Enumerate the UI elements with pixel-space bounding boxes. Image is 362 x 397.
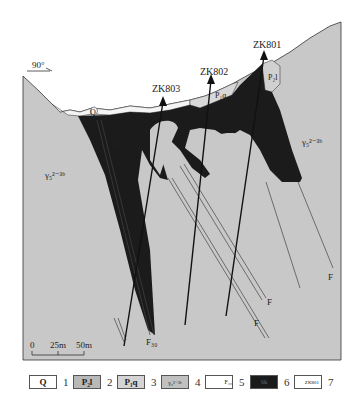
fault-label-f30: F₃₀ [146,337,157,347]
legend-item-orebody: Sk 6 [250,373,290,391]
orientation-label: 90° [32,60,45,70]
legend-number: 1 [63,376,69,388]
legend-swatch-quaternary: Q [29,375,57,389]
fault-label-f-c: F [328,272,333,282]
legend-number: 6 [284,376,290,388]
fault-label-f-a: F [254,318,259,328]
legend-swatch-drill-hole: ZK801 [294,375,322,389]
fault-label-f-b: F [267,297,272,307]
drill-hole-label-zk801: ZK801 [253,39,281,50]
legend-item-quaternary: Q 1 [29,373,69,391]
unit-label-granite-right: γ₅²⁻³ᵇ [301,137,322,147]
unit-label-orebody: Sk [112,139,120,147]
scale-tick-50m: 50m [76,340,92,350]
legend-item-granite: γ₅²⁻³ᵇ 4 [161,373,201,391]
legend-swatch-p1q: P₁q [117,375,145,389]
legend-number: 5 [239,376,245,388]
legend-number: 2 [107,376,113,388]
unit-label-p1q: P₁q [215,91,226,100]
granite-body [23,22,341,360]
legend-swatch-fault: F₃₀ [205,375,233,389]
unit-label-p2l: P₂l [268,73,278,82]
legend-item-p1q: P₁q 3 [117,373,157,391]
legend-number: 3 [151,376,157,388]
drill-hole-label-zk802: ZK802 [200,66,228,77]
geological-cross-section: 90° ZK803 ZK802 ZK801 Q P₁q P₂l γ₅²⁻³ᵇ γ… [0,0,362,397]
scale-tick-0: 0 [30,340,35,350]
drill-hole-label-zk803: ZK803 [152,83,180,94]
legend: Q 1 P₂l 2 P₁q 3 γ₅²⁻³ᵇ 4 F₃₀ 5 Sk 6 ZK80… [0,373,362,393]
legend-item-fault: F₃₀ 5 [205,373,245,391]
scale-tick-25m: 25m [50,340,66,350]
legend-number: 7 [328,376,334,388]
legend-swatch-orebody: Sk [250,375,278,389]
legend-swatch-p2l: P₂l [73,375,101,389]
legend-number: 4 [195,376,201,388]
legend-swatch-granite: γ₅²⁻³ᵇ [161,375,189,389]
legend-item-drill-hole: ZK801 7 [294,373,334,391]
unit-label-granite-left: γ₅²⁻³ᵇ [44,170,65,180]
legend-item-p2l: P₂l 2 [73,373,113,391]
unit-label-q: Q [90,108,96,117]
